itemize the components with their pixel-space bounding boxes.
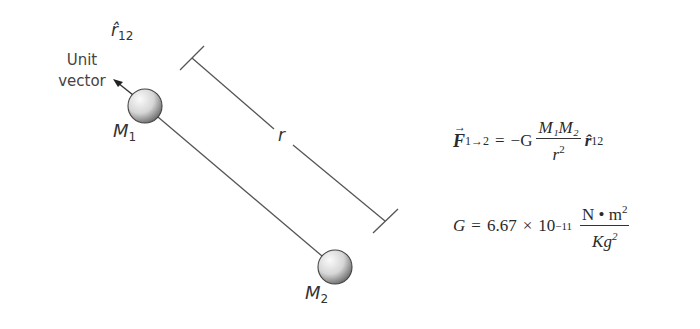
constant-mantissa: 6.67 bbox=[487, 216, 517, 236]
unit-vector-label: Unit vector bbox=[52, 50, 112, 92]
equals-sign: = bbox=[495, 131, 505, 151]
units-denominator-exponent: 2 bbox=[612, 230, 618, 242]
vector-arrow-icon: → bbox=[454, 120, 466, 135]
minus-g: −G bbox=[511, 131, 533, 151]
times-sign: × bbox=[523, 216, 533, 236]
denominator-exponent: 2 bbox=[559, 143, 565, 155]
fraction-denominator: r2 bbox=[553, 139, 565, 164]
equals-sign: = bbox=[471, 216, 481, 236]
force-vector-symbol: →F bbox=[453, 131, 465, 152]
rhat-subscript: 12 bbox=[118, 29, 133, 43]
constant-exponent: −11 bbox=[555, 220, 572, 232]
connecting-line bbox=[145, 106, 335, 267]
units-numerator-text: N • m bbox=[582, 205, 622, 224]
mass-1-subscript: 1 bbox=[129, 130, 137, 144]
units-numerator-exponent: 2 bbox=[622, 203, 628, 215]
unit-vector-label-line1: Unit bbox=[52, 50, 112, 71]
fraction-numerator: M₁M₂ bbox=[536, 118, 580, 139]
constant-g: G bbox=[453, 216, 465, 236]
unit-vector-label-line2: vector bbox=[52, 71, 112, 92]
mass-over-r-squared-fraction: M₁M₂ r2 bbox=[536, 118, 580, 164]
units-denominator: Kg2 bbox=[592, 226, 617, 251]
mass-2-symbol: M bbox=[305, 282, 321, 303]
gravitational-constant-equation: G = 6.67 × 10−11 N • m2 Kg2 bbox=[453, 200, 633, 251]
mass-2-label: M2 bbox=[305, 282, 328, 306]
unit-vector-rhat: r̂ bbox=[585, 131, 592, 151]
distance-dimension-line bbox=[180, 46, 398, 233]
distance-label: r bbox=[278, 125, 285, 145]
unit-vector-symbol: r̂12 bbox=[111, 20, 133, 43]
units-fraction: N • m2 Kg2 bbox=[580, 200, 629, 251]
force-subscript: 1→2 bbox=[465, 134, 489, 149]
unit-vector-subscript: 12 bbox=[591, 134, 603, 149]
mass-1-symbol: M bbox=[113, 120, 129, 141]
units-denominator-text: Kg bbox=[592, 232, 612, 251]
gravitation-diagram: r̂12 Unit vector M1 M2 r →F1→2 = −G M₁M₂… bbox=[0, 0, 700, 329]
mass-2-sphere-icon bbox=[318, 250, 352, 284]
mass-2-subscript: 2 bbox=[321, 292, 329, 306]
rhat-glyph: r̂ bbox=[111, 20, 118, 40]
units-numerator: N • m2 bbox=[580, 200, 629, 226]
force-equation: →F1→2 = −G M₁M₂ r2 r̂12 bbox=[453, 118, 603, 164]
unit-vector-arrow-icon bbox=[113, 79, 133, 95]
mass-1-sphere-icon bbox=[128, 89, 162, 123]
mass-1-label: M1 bbox=[113, 120, 136, 144]
constant-base: 10 bbox=[538, 216, 555, 236]
